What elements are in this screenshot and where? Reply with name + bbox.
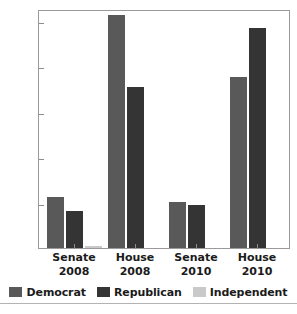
legend-item-republican: Republican [97, 286, 182, 299]
legend-swatch-independent [193, 287, 206, 297]
x-tick-mark [74, 244, 75, 249]
legend-item-democrat: Democrat [9, 286, 85, 299]
x-label-line-1: House [221, 251, 293, 265]
bar-independent-senate-2008 [85, 246, 102, 248]
bar-democrat-house-2008 [108, 15, 125, 248]
bar-democrat-senate-2010 [169, 202, 186, 248]
bar-republican-senate-2010 [188, 205, 205, 248]
x-tick-mark [257, 244, 258, 249]
bar-group-house-2010 [230, 11, 285, 248]
legend-label-democrat: Democrat [26, 286, 85, 299]
legend-label-republican: Republican [114, 286, 182, 299]
x-tick-mark [135, 244, 136, 249]
bar-democrat-house-2010 [230, 77, 247, 248]
bar-republican-house-2010 [249, 28, 266, 248]
bar-group-senate-2008 [47, 11, 102, 248]
chart-legend: Democrat Republican Independent [0, 284, 297, 300]
bar-chart: 0 50 100 150 200 250 [0, 0, 297, 314]
x-axis-labels: Senate 2008 House 2008 Senate 2010 House… [38, 250, 290, 280]
bar-group-senate-2010 [169, 11, 224, 248]
legend-swatch-republican [97, 287, 110, 297]
legend-swatch-democrat [9, 287, 22, 297]
x-axis-label-house-2010: House 2010 [221, 251, 293, 278]
bars-container [39, 11, 289, 248]
legend-label-independent: Independent [210, 286, 288, 299]
y-tick-inner [39, 159, 44, 160]
bottom-divider [0, 303, 297, 304]
plot-area [38, 10, 290, 249]
y-tick-inner [39, 114, 44, 115]
x-tick-mark [196, 244, 197, 249]
y-tick-inner [39, 68, 44, 69]
bar-republican-senate-2008 [66, 211, 83, 248]
bar-republican-house-2008 [127, 87, 144, 249]
bar-democrat-senate-2008 [47, 197, 64, 248]
bar-group-house-2008 [108, 11, 163, 248]
y-tick-inner [39, 205, 44, 206]
x-label-line-2: 2010 [221, 265, 293, 279]
y-axis: 0 50 100 150 200 250 [0, 0, 38, 260]
legend-item-independent: Independent [193, 286, 288, 299]
y-tick-inner [39, 23, 44, 24]
